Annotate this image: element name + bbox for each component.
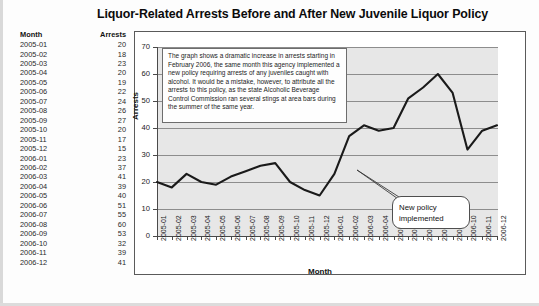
cell-month: 2006-03: [8, 172, 77, 181]
cell-arrests: 23: [77, 154, 130, 163]
x-tick-mark: [231, 237, 232, 240]
callout-line-1: New policy: [399, 202, 469, 213]
x-tick-label: 2006-12: [500, 215, 507, 241]
y-tick-label: 40: [128, 123, 150, 132]
callout-new-policy: New policy implemented: [392, 196, 470, 229]
table-row: 2006-1032: [8, 239, 130, 248]
x-tick-mark: [467, 237, 468, 240]
table-row: 2006-1139: [8, 248, 130, 257]
figure-page: Liquor-Related Arrests Before and After …: [0, 0, 539, 306]
cell-arrests: 17: [77, 135, 130, 144]
y-tick-label: 30: [128, 150, 150, 159]
x-tick-mark: [290, 237, 291, 240]
annotation-textbox: The graph shows a dramatic increase in a…: [162, 48, 347, 123]
table-row: 2006-0540: [8, 191, 130, 200]
cell-month: 2005-09: [8, 116, 77, 125]
cell-month: 2006-01: [8, 154, 77, 163]
table-row: 2006-0755: [8, 210, 130, 219]
cell-arrests: 15: [77, 144, 130, 153]
cell-arrests: 20: [77, 40, 130, 49]
cell-month: 2005-08: [8, 106, 77, 115]
table-row: 2005-1117: [8, 135, 130, 144]
x-tick-mark: [408, 237, 409, 240]
table-row: 2006-0651: [8, 201, 130, 210]
table-header-row: Month Arrests: [8, 30, 130, 40]
cell-arrests: 41: [77, 258, 130, 267]
x-tick-mark: [379, 237, 380, 240]
cell-month: 2006-06: [8, 201, 77, 210]
cell-month: 2005-07: [8, 97, 77, 106]
table-row: 2005-0826: [8, 106, 130, 115]
x-tick-mark: [423, 237, 424, 240]
cell-arrests: 41: [77, 172, 130, 181]
x-tick-mark: [305, 237, 306, 240]
x-tick-mark: [497, 237, 498, 240]
cell-month: 2006-12: [8, 258, 77, 267]
cell-month: 2005-06: [8, 87, 77, 96]
cell-month: 2006-02: [8, 163, 77, 172]
table-row: 2005-0420: [8, 68, 130, 77]
cell-month: 2006-05: [8, 191, 77, 200]
table-row: 2006-0123: [8, 154, 130, 163]
x-tick-mark: [438, 237, 439, 240]
cell-arrests: 27: [77, 116, 130, 125]
scan-edge-left: [0, 0, 3, 306]
y-tick-label: 60: [128, 69, 150, 78]
column-header-month: Month: [8, 30, 77, 40]
cell-arrests: 37: [77, 163, 130, 172]
cell-arrests: 26: [77, 106, 130, 115]
x-tick-mark: [201, 237, 202, 240]
table-row: 2005-0724: [8, 97, 130, 106]
callout-line-2: implemented: [399, 213, 469, 224]
table-row: 2005-1215: [8, 144, 130, 153]
x-tick-mark: [394, 237, 395, 240]
cell-arrests: 24: [77, 97, 130, 106]
table-row: 2006-0237: [8, 163, 130, 172]
cell-arrests: 22: [77, 87, 130, 96]
x-tick-mark: [260, 237, 261, 240]
x-tick-mark: [157, 237, 158, 240]
data-table: Month Arrests 2005-01202005-02182005-032…: [8, 30, 130, 267]
x-tick-mark: [364, 237, 365, 240]
x-tick-mark: [246, 237, 247, 240]
x-tick-mark: [320, 237, 321, 240]
cell-arrests: 20: [77, 125, 130, 134]
cell-arrests: 32: [77, 239, 130, 248]
table-row: 2005-0927: [8, 116, 130, 125]
table-row: 2006-0860: [8, 220, 130, 229]
x-tick-mark: [482, 237, 483, 240]
table-row: 2005-1020: [8, 125, 130, 134]
table-row: 2005-0218: [8, 50, 130, 59]
cell-month: 2005-02: [8, 50, 77, 59]
cell-arrests: 20: [77, 68, 130, 77]
table-row: 2006-0953: [8, 229, 130, 238]
cell-arrests: 53: [77, 229, 130, 238]
cell-month: 2006-04: [8, 182, 77, 191]
table-body: 2005-01202005-02182005-03232005-04202005…: [8, 40, 130, 267]
cell-month: 2005-01: [8, 40, 77, 49]
table-row: 2005-0323: [8, 59, 130, 68]
cell-month: 2006-10: [8, 239, 77, 248]
y-tick-label: 0: [128, 231, 150, 240]
cell-month: 2006-07: [8, 210, 77, 219]
cell-month: 2006-11: [8, 248, 77, 257]
cell-arrests: 39: [77, 182, 130, 191]
x-tick-mark: [453, 237, 454, 240]
x-tick-mark: [334, 237, 335, 240]
x-tick-mark: [172, 237, 173, 240]
cell-month: 2005-05: [8, 78, 77, 87]
cell-month: 2006-09: [8, 229, 77, 238]
cell-arrests: 18: [77, 50, 130, 59]
y-tick-label: 70: [128, 42, 150, 51]
table-row: 2006-1241: [8, 258, 130, 267]
cell-month: 2005-03: [8, 59, 77, 68]
x-axis-title: Month: [308, 267, 332, 276]
cell-arrests: 19: [77, 78, 130, 87]
table-row: 2005-0120: [8, 40, 130, 49]
y-tick-label: 10: [128, 204, 150, 213]
cell-arrests: 23: [77, 59, 130, 68]
cell-month: 2005-11: [8, 135, 77, 144]
table-row: 2006-0439: [8, 182, 130, 191]
y-tick-label: 20: [128, 177, 150, 186]
cell-arrests: 51: [77, 201, 130, 210]
